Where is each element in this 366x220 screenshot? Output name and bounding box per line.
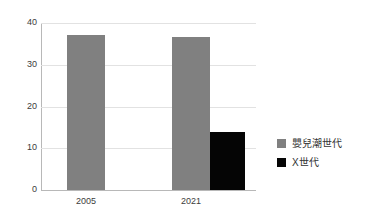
chart-legend: 嬰兒潮世代 X世代 [277, 134, 363, 172]
y-tick-label-20: 20 [3, 102, 37, 111]
y-tick-label-40: 40 [3, 18, 37, 27]
gridline-40 [41, 23, 256, 24]
legend-swatch-icon-boomer [277, 139, 286, 148]
bar-2005-boomer [67, 35, 105, 190]
x-tick-label-2021: 2021 [152, 196, 230, 206]
bar-2021-genx [210, 132, 245, 190]
plot-area [41, 23, 256, 190]
legend-label-genx: X世代 [292, 157, 319, 168]
gridline-baseline-0 [41, 190, 256, 191]
y-tick-label-10: 10 [3, 143, 37, 152]
legend-item-boomer[interactable]: 嬰兒潮世代 [277, 134, 363, 153]
legend-label-boomer: 嬰兒潮世代 [292, 138, 342, 149]
y-tick-label-0: 0 [3, 185, 37, 194]
x-tick-label-2005: 2005 [47, 196, 125, 206]
y-axis-labels: 40 30 20 10 0 [0, 23, 37, 190]
legend-item-genx[interactable]: X世代 [277, 153, 363, 172]
y-tick-label-30: 30 [3, 60, 37, 69]
bar-2021-boomer [172, 37, 210, 190]
bar-chart: 40 30 20 10 0 2005 2021 嬰兒潮世代 X世代 [0, 0, 366, 220]
legend-swatch-icon-genx [277, 158, 286, 167]
